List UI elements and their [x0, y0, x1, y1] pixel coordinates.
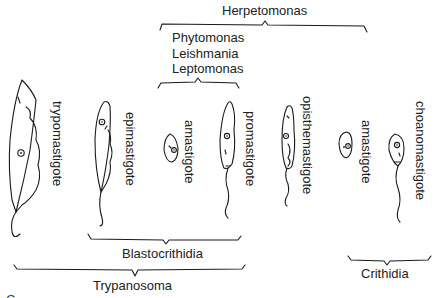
amastigote-label-2: amastigote [359, 120, 373, 184]
cut-off-caption: C. ... [6, 292, 33, 298]
leishmania-group-labels: Phytomonas Leishmania Leptomonas [172, 30, 244, 77]
amastigote-label-1: amastigote [182, 120, 196, 184]
trypomastigote-cell [9, 80, 39, 237]
trypanosoma-label: Trypanosoma [93, 278, 172, 293]
promastigote-label: promastigote [243, 111, 257, 186]
epimastigote-cell [95, 102, 112, 227]
trypomastigote-label: trypomastigote [50, 101, 64, 186]
blastocrithidia-bracket [88, 234, 241, 244]
choanomastigote-cell [389, 134, 404, 222]
phytomonas-label: Phytomonas [172, 30, 244, 46]
crithidia-label: Crithidia [361, 266, 409, 281]
amastigote-cell-2 [339, 132, 352, 158]
epimastigote-label: epimastigote [123, 112, 137, 186]
leishmania-group-bracket [158, 78, 239, 88]
leptomonas-label: Leptomonas [172, 61, 244, 77]
crithidia-bracket [348, 256, 431, 265]
opisthomastigote-label: opisthemastigote [300, 96, 314, 194]
opisthomastigote-cell [282, 106, 295, 206]
trypanosoma-bracket [14, 265, 245, 276]
leishmania-label: Leishmania [172, 46, 244, 62]
trypanosomatid-forms-diagram: Herpetomonas Phytomonas Leishmania Lepto… [0, 0, 442, 298]
blastocrithidia-label: Blastocrithidia [122, 246, 203, 261]
amastigote-cell-1 [164, 134, 178, 162]
choanomastigote-label: choanomastigote [413, 101, 427, 200]
promastigote-cell [220, 102, 235, 218]
herpetomonas-label: Herpetomonas [222, 3, 307, 18]
